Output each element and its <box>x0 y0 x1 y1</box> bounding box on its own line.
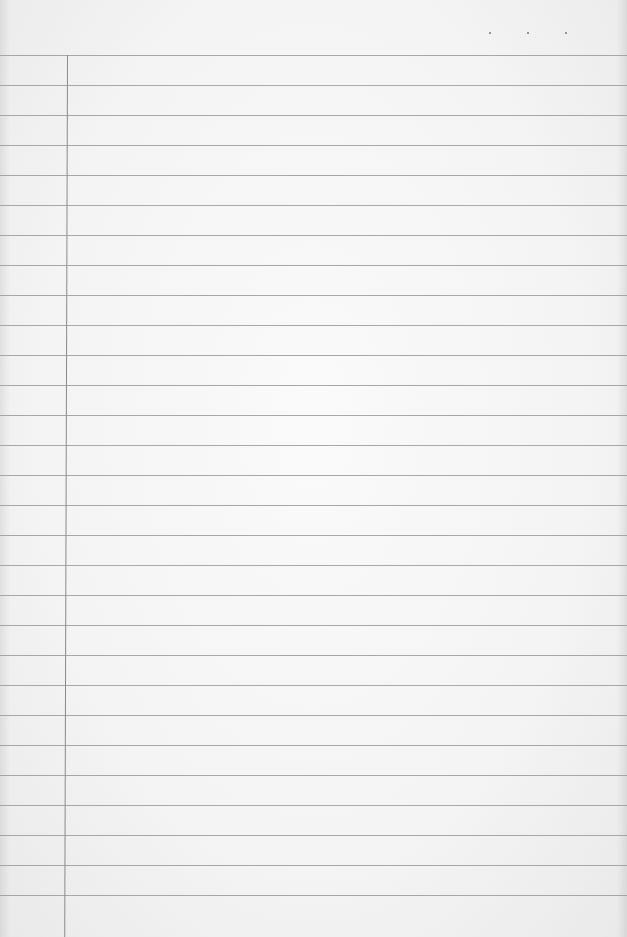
notebook-page <box>0 0 627 937</box>
ruled-line <box>0 745 627 746</box>
ruled-line <box>0 715 627 716</box>
ruled-line <box>0 835 627 836</box>
ruled-line <box>0 475 627 476</box>
ruled-line <box>0 865 627 866</box>
ruled-line <box>0 85 627 86</box>
ruled-line <box>0 595 627 596</box>
ruled-line <box>0 415 627 416</box>
ruled-line <box>0 235 627 236</box>
right-edge-shadow <box>617 0 627 937</box>
left-edge-shadow <box>0 0 10 937</box>
ruled-line <box>0 805 627 806</box>
ruled-line <box>0 565 627 566</box>
ruled-line <box>0 505 627 506</box>
ruled-line <box>0 145 627 146</box>
ruled-line <box>0 445 627 446</box>
ruled-line <box>0 895 627 896</box>
ruled-line <box>0 775 627 776</box>
dot-mark <box>527 32 529 34</box>
ruled-line <box>0 175 627 176</box>
ruled-line <box>0 325 627 326</box>
ruled-line <box>0 535 627 536</box>
ruled-line <box>0 625 627 626</box>
ruled-line <box>0 265 627 266</box>
ruled-line <box>0 115 627 116</box>
ruled-line <box>0 385 627 386</box>
dot-mark <box>489 32 491 34</box>
ruled-line <box>0 685 627 686</box>
ruled-line <box>0 205 627 206</box>
ruled-line <box>0 355 627 356</box>
dot-mark <box>565 32 567 34</box>
ruled-line <box>0 295 627 296</box>
ruled-line <box>0 655 627 656</box>
ruled-line <box>0 55 627 56</box>
